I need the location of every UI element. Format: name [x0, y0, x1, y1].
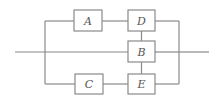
- block-d-label: D: [136, 15, 146, 28]
- block-b: B: [128, 41, 155, 62]
- block-e-label: E: [136, 78, 145, 91]
- block-e: E: [128, 74, 155, 94]
- reliability-diagram: A D B C E: [0, 0, 220, 103]
- block-a-label: A: [83, 15, 92, 28]
- block-d: D: [128, 10, 155, 31]
- block-c: C: [75, 74, 103, 94]
- block-c-label: C: [85, 78, 94, 91]
- block-b-label: B: [136, 46, 145, 59]
- block-a: A: [74, 10, 102, 31]
